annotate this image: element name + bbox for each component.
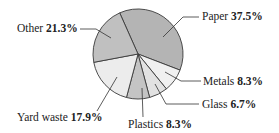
label-other-name: Other	[17, 22, 43, 34]
label-paper: Paper 37.5%	[202, 11, 263, 23]
label-plastics-name: Plastics	[128, 118, 163, 130]
label-plastics-pct: 8.3%	[166, 118, 192, 130]
label-metals-name: Metals	[203, 75, 234, 87]
pie-slices	[93, 9, 183, 99]
label-metals-pct: 8.3%	[237, 75, 263, 87]
label-other-pct: 21.3%	[46, 22, 78, 34]
label-paper-pct: 37.5%	[231, 10, 263, 22]
label-glass: Glass 6.7%	[202, 99, 256, 111]
label-glass-name: Glass	[202, 98, 228, 110]
label-yard: Yard waste 17.9%	[17, 112, 102, 124]
label-paper-name: Paper	[202, 10, 228, 22]
label-metals: Metals 8.3%	[203, 76, 263, 88]
label-glass-pct: 6.7%	[230, 98, 256, 110]
label-yard-pct: 17.9%	[71, 111, 103, 123]
label-yard-name: Yard waste	[17, 111, 68, 123]
label-plastics: Plastics 8.3%	[128, 119, 192, 131]
label-other: Other 21.3%	[17, 23, 78, 35]
